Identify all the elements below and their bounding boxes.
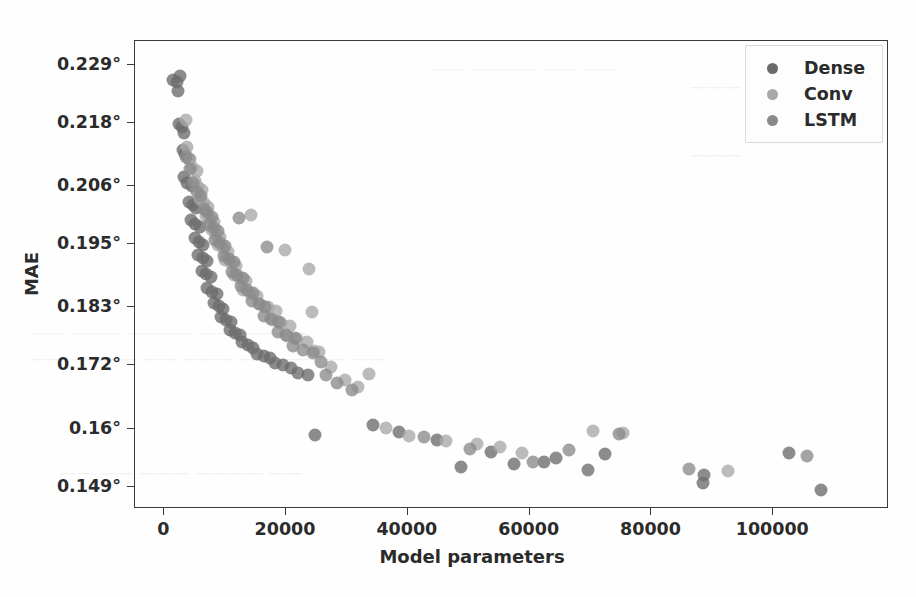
scatter-point-dense (171, 85, 184, 98)
scatter-point-dense (455, 460, 468, 473)
scatter-point-conv (278, 244, 291, 257)
scatter-point-dense (309, 429, 322, 442)
scatter-point-dense (550, 452, 563, 465)
scatter-point-dense (814, 484, 827, 497)
legend-label: LSTM (804, 110, 857, 130)
x-tick-mark (772, 508, 773, 515)
scatter-point-lstm (801, 450, 814, 463)
x-axis-label: Model parameters (0, 546, 916, 567)
x-tick-label: 60000 (498, 519, 559, 539)
scatter-point-dense (697, 469, 710, 482)
scatter-point-conv (722, 465, 735, 478)
scatter-point-dense (507, 457, 520, 470)
x-tick-mark (163, 508, 164, 515)
x-tick-mark (650, 508, 651, 515)
scatter-point-dense (598, 448, 611, 461)
x-tick-label: 100000 (736, 519, 809, 539)
scatter-point-conv (403, 430, 416, 443)
scatter-point-dense (783, 447, 796, 460)
scatter-point-conv (244, 208, 257, 221)
y-tick-mark (127, 306, 134, 307)
scatter-point-lstm (463, 442, 476, 455)
x-tick-label: 40000 (376, 519, 437, 539)
y-axis-label: MAE (21, 252, 42, 296)
scatter-point-conv (362, 367, 375, 380)
y-tick-mark (127, 486, 134, 487)
scatter-point-conv (303, 263, 316, 276)
legend-marker-icon (767, 115, 778, 126)
scatter-point-dense (174, 70, 187, 83)
scatter-point-conv (305, 305, 318, 318)
scatter-point-conv (379, 421, 392, 434)
scatter-point-lstm (527, 455, 540, 468)
scatter-point-conv (439, 435, 452, 448)
x-tick-mark (407, 508, 408, 515)
scatter-point-lstm (315, 356, 328, 369)
legend-item-dense[interactable]: Dense (756, 55, 870, 81)
scatter-point-dense (301, 368, 314, 381)
y-tick-label: 0.195° (57, 233, 121, 253)
y-tick-label: 0.183° (57, 296, 121, 316)
x-tick-label: 80000 (620, 519, 681, 539)
scatter-point-dense (582, 463, 595, 476)
scatter-point-conv (587, 424, 600, 437)
scatter-point-conv (180, 113, 193, 126)
scatter-point-dense (177, 127, 190, 140)
scatter-point-lstm (683, 462, 696, 475)
x-tick-label: 20000 (255, 519, 316, 539)
y-tick-mark (127, 185, 134, 186)
scatter-point-lstm (232, 211, 245, 224)
y-tick-label: 0.229° (57, 54, 121, 74)
y-tick-mark (127, 364, 134, 365)
legend-item-lstm[interactable]: LSTM (756, 107, 870, 133)
scatter-point-lstm (194, 189, 207, 202)
y-tick-label: 0.149° (57, 476, 121, 496)
scatter-point-lstm (260, 241, 273, 254)
y-tick-label: 0.172° (57, 354, 121, 374)
y-tick-label: 0.16° (69, 418, 121, 438)
y-tick-label: 0.206° (57, 175, 121, 195)
y-tick-label: 0.218° (57, 112, 121, 132)
y-tick-mark (127, 64, 134, 65)
x-tick-label: 0 (157, 519, 169, 539)
legend-marker-icon (767, 89, 778, 100)
x-tick-mark (285, 508, 286, 515)
legend-label: Dense (804, 58, 865, 78)
figure-canvas: —— ———— —— ————— ——————— ——— ———— —— ———… (0, 0, 916, 597)
chart-legend: DenseConvLSTM (745, 45, 883, 143)
scatter-point-lstm (179, 150, 192, 163)
y-tick-mark (127, 243, 134, 244)
scatter-point-lstm (331, 377, 344, 390)
legend-item-conv[interactable]: Conv (756, 81, 870, 107)
scatter-point-lstm (562, 443, 575, 456)
scatter-point-lstm (612, 428, 625, 441)
legend-marker-icon (767, 63, 778, 74)
scatter-point-lstm (184, 163, 197, 176)
scatter-point-lstm (417, 431, 430, 444)
y-tick-mark (127, 122, 134, 123)
scatter-point-conv (494, 440, 507, 453)
scatter-point-dense (366, 418, 379, 431)
x-tick-mark (529, 508, 530, 515)
scatter-point-lstm (345, 383, 358, 396)
legend-label: Conv (804, 84, 853, 104)
y-tick-mark (127, 428, 134, 429)
